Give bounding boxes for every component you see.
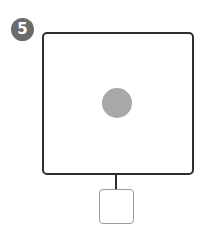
connector-line — [115, 175, 117, 190]
center-dot-icon — [102, 88, 132, 118]
attached-box — [99, 189, 134, 224]
step-number-badge: 5 — [11, 18, 34, 41]
